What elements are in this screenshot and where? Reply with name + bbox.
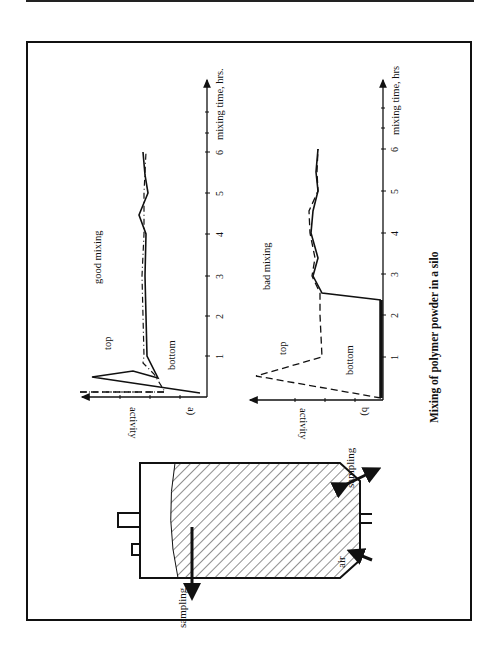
plot-a-tick-6: 6 (214, 150, 225, 155)
plot-b-label-top: top (277, 342, 288, 355)
plot-b: 1 2 3 4 5 6 mixing time, hrs activity b)… (250, 66, 401, 440)
plot-b-series-top (256, 149, 381, 398)
plot-a-series-bottom (92, 152, 200, 393)
plot-a-tick-2: 2 (214, 314, 225, 319)
plot-a-ylabel: activity (128, 407, 139, 439)
plot-a-title: good mixing (92, 230, 103, 284)
plot-b-xlabel: mixing time, hrs (390, 66, 401, 135)
plot-a-label-top: top (102, 337, 113, 350)
powder-fill (171, 463, 360, 578)
plot-b-title: bad mixing (261, 242, 272, 290)
plot-a-tick-1: 1 (214, 354, 225, 359)
plot-a-tick-5: 5 (214, 191, 225, 196)
plot-b-ticks (295, 108, 386, 402)
label-sampling-bottom: sampling (344, 447, 356, 488)
plot-b-tick-6: 6 (389, 147, 400, 152)
silo-diagram: sampling sampling air (118, 447, 376, 628)
plot-b-label-bottom: bottom (344, 345, 355, 375)
plot-b-tick-3: 3 (389, 272, 400, 277)
plot-a: 1 2 3 4 5 6 mixing time, hrs. activity a… (80, 68, 225, 439)
top-nozzle-large (118, 513, 140, 527)
label-sampling-top: sampling (176, 587, 188, 628)
plot-a-panel-label: a) (185, 407, 197, 416)
plot-a-tick-4: 4 (214, 232, 225, 237)
label-air: air (335, 556, 347, 568)
plot-b-series-bottom (311, 149, 381, 300)
plot-b-tick-1: 1 (389, 355, 400, 360)
plot-b-tick-2: 2 (389, 313, 400, 318)
plot-a-xlabel: mixing time, hrs. (214, 68, 225, 140)
plot-b-tick-5: 5 (389, 189, 400, 194)
plot-a-tick-3: 3 (214, 274, 225, 279)
plot-a-label-bottom: bottom (166, 340, 177, 370)
plot-b-tick-4: 4 (389, 231, 400, 236)
figure-canvas: sampling sampling air 1 2 3 4 5 6 mixing… (0, 0, 494, 656)
plot-b-ylabel: activity (298, 408, 309, 440)
plot-b-panel-label: b) (359, 407, 371, 416)
top-nozzle-small (132, 544, 140, 555)
plot-a-ticks (120, 112, 210, 399)
figure-caption: Mixing of polymer powder in a silo (428, 251, 441, 423)
